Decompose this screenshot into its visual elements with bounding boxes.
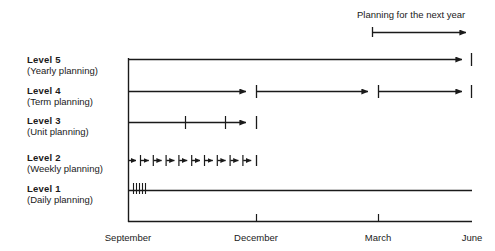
bar-level-2	[128, 155, 257, 166]
annotation-arrow	[372, 27, 466, 37]
bar-level-1	[128, 183, 472, 194]
bar-level-3	[128, 116, 257, 129]
bar-level-4	[128, 85, 472, 98]
timeline-drawing	[0, 0, 495, 251]
bar-level-5	[128, 53, 472, 66]
planning-levels-timeline-figure: Level 5 (Yearly planning) Level 4 (Term …	[0, 0, 495, 251]
